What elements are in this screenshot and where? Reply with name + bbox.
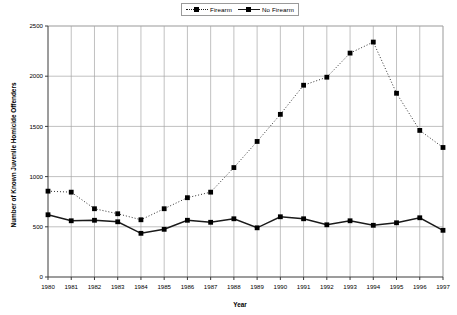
data-point — [348, 218, 353, 223]
svg-text:500: 500 — [33, 223, 44, 230]
x-axis-title: Year — [233, 301, 247, 308]
y-tick-labels: 05001000150020002500 — [29, 22, 48, 280]
axis-lines — [48, 26, 443, 277]
data-point — [115, 211, 120, 216]
plot-area: 05001000150020002500 1980198119821983198… — [0, 0, 457, 315]
data-point — [394, 91, 399, 96]
svg-text:1997: 1997 — [436, 283, 450, 290]
svg-text:1981: 1981 — [64, 283, 78, 290]
data-point — [208, 190, 213, 195]
data-point — [231, 165, 236, 170]
data-point — [185, 195, 190, 200]
svg-text:2000: 2000 — [29, 72, 43, 79]
data-point — [92, 218, 97, 223]
svg-text:1991: 1991 — [297, 283, 311, 290]
data-point — [371, 223, 376, 228]
data-point — [441, 145, 446, 150]
data-point — [417, 128, 422, 133]
data-point — [231, 216, 236, 221]
svg-text:1980: 1980 — [41, 283, 55, 290]
data-point — [115, 219, 120, 224]
svg-text:1990: 1990 — [274, 283, 288, 290]
data-point — [185, 218, 190, 223]
data-point — [324, 75, 329, 80]
data-point — [394, 220, 399, 225]
data-point — [69, 190, 74, 195]
data-point — [139, 231, 144, 236]
data-point — [92, 206, 97, 211]
data-point — [255, 225, 260, 230]
grid-lines — [48, 26, 443, 277]
data-point — [46, 189, 51, 194]
svg-text:1989: 1989 — [250, 283, 264, 290]
data-point — [208, 220, 213, 225]
data-point — [278, 112, 283, 117]
data-point — [301, 83, 306, 88]
data-point — [324, 222, 329, 227]
data-point — [139, 217, 144, 222]
svg-text:1992: 1992 — [320, 283, 334, 290]
svg-text:1000: 1000 — [29, 173, 43, 180]
svg-text:1994: 1994 — [367, 283, 381, 290]
y-axis-title: Number of Known Juvenile Homicide Offend… — [10, 82, 17, 227]
series-no-firearm — [46, 212, 446, 235]
data-point — [162, 227, 167, 232]
data-point — [69, 218, 74, 223]
data-point — [46, 212, 51, 217]
svg-text:1995: 1995 — [390, 283, 404, 290]
svg-text:1984: 1984 — [134, 283, 148, 290]
series-firearm — [46, 40, 446, 223]
svg-text:2500: 2500 — [29, 22, 43, 29]
svg-text:1500: 1500 — [29, 123, 43, 130]
data-point — [255, 139, 260, 144]
svg-text:0: 0 — [40, 273, 44, 280]
data-point — [348, 51, 353, 56]
svg-text:1986: 1986 — [181, 283, 195, 290]
chart-figure: Firearm No Firearm 05001000150020002500 … — [0, 0, 457, 315]
data-point — [371, 40, 376, 45]
data-point — [417, 215, 422, 220]
data-point — [301, 216, 306, 221]
svg-text:1996: 1996 — [413, 283, 427, 290]
data-point — [441, 228, 446, 233]
x-tick-labels: 1980198119821983198419851986198719881989… — [41, 277, 450, 290]
svg-text:1993: 1993 — [343, 283, 357, 290]
svg-text:1985: 1985 — [157, 283, 171, 290]
data-point — [162, 206, 167, 211]
svg-text:1982: 1982 — [88, 283, 102, 290]
svg-text:1983: 1983 — [111, 283, 125, 290]
svg-text:1987: 1987 — [204, 283, 218, 290]
svg-text:1988: 1988 — [227, 283, 241, 290]
data-point — [278, 214, 283, 219]
